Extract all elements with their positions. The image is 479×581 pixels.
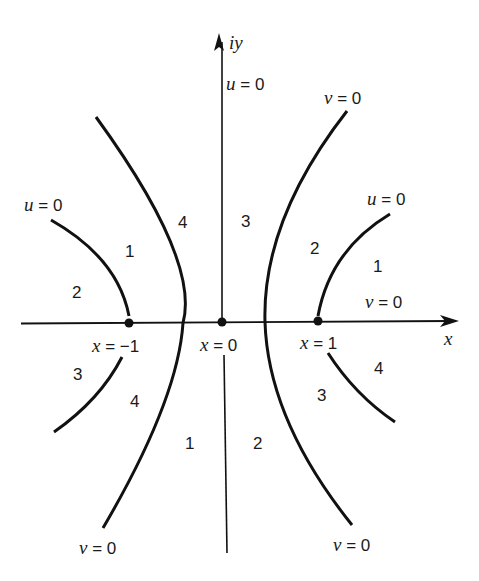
point-label-val: 1: [328, 334, 337, 353]
iy-axis-label: iy: [229, 33, 243, 52]
curve-label-val: 0: [396, 190, 405, 209]
region-label: 3: [317, 387, 326, 404]
iy-axis-lower: [224, 355, 227, 553]
curve-label-var: u: [24, 194, 34, 215]
region-label: 1: [185, 435, 194, 452]
region-label: 4: [178, 214, 187, 231]
point-label-val: 0: [228, 336, 237, 355]
curve-label-val: 0: [107, 539, 116, 558]
curve-label-right-u0: u = 0: [367, 189, 405, 208]
point-label-val: −1: [120, 337, 139, 356]
curve-label-eq: =: [377, 190, 396, 209]
point-label-x-1: x = 1: [300, 333, 337, 352]
curve-label-top-center-u0: u = 0: [226, 74, 264, 93]
curve-label-val: 0: [255, 75, 264, 94]
point-label-x-0: x = 0: [200, 335, 237, 354]
curve-label-val: 0: [352, 89, 361, 108]
region-label: 2: [72, 284, 81, 301]
curve-left-inner-lower: [54, 357, 122, 432]
point-x-minus-1: [125, 319, 134, 328]
point-label-eq: =: [308, 334, 327, 353]
curve-label-val: 0: [393, 293, 402, 312]
region-label: 2: [310, 240, 319, 257]
point-x-0: [218, 318, 227, 327]
curve-label-eq: =: [341, 536, 360, 555]
curve-left-inner-upper-u0: [51, 220, 129, 316]
curve-label-bottom-right-v0: v = 0: [333, 535, 370, 554]
curve-label-val: 0: [361, 536, 370, 555]
curve-label-eq: =: [236, 75, 255, 94]
curve-label-var: u: [367, 188, 377, 209]
curve-label-val: 0: [53, 196, 62, 215]
region-label: 1: [373, 258, 382, 275]
curve-label-var: u: [226, 73, 236, 94]
point-label-eq: =: [100, 337, 119, 356]
curve-label-eq: =: [34, 196, 53, 215]
region-label: 3: [73, 366, 82, 383]
curve-label-eq: =: [332, 89, 351, 108]
curve-label-left-u0: u = 0: [24, 195, 62, 214]
region-label: 2: [253, 435, 262, 452]
curve-right-inner-lower: [328, 353, 395, 422]
x-axis-label: x: [444, 329, 452, 348]
curve-label-top-right-v0: v = 0: [324, 88, 361, 107]
region-label: 3: [241, 213, 250, 230]
curve-label-eq: =: [87, 539, 106, 558]
curve-label-bottom-left-v0: v = 0: [79, 538, 116, 557]
point-label-x-minus-1: x = −1: [92, 336, 139, 355]
curve-label-right-axis-v0: v = 0: [365, 292, 402, 311]
region-label: 4: [130, 393, 139, 410]
x-axis: [21, 321, 450, 324]
point-x-1: [314, 317, 323, 326]
region-label: 4: [374, 360, 383, 377]
point-label-eq: =: [208, 336, 227, 355]
region-label: 1: [125, 243, 134, 260]
curve-right-outer-v0: [265, 111, 352, 525]
curve-label-eq: =: [373, 293, 392, 312]
